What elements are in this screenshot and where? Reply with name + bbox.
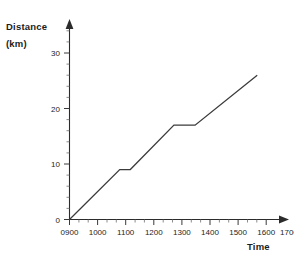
x-tick-label-1200: 1200: [145, 228, 163, 237]
y-tick-label-0: 0: [56, 216, 61, 225]
x-tick-label-0900: 0900: [61, 228, 79, 237]
chart-screenshot: 0 10 20 30 0900 1000 1100 1200 1300 1400…: [0, 0, 294, 255]
x-tick-labels: 0900 1000 1100 1200 1300 1400 1500 1600 …: [61, 228, 294, 237]
x-axis-group: [70, 216, 290, 224]
y-axis-ticks: [64, 31, 70, 220]
y-tick-label-20: 20: [51, 105, 60, 114]
x-axis-title: Time: [247, 241, 270, 252]
distance-time-chart: 0 10 20 30 0900 1000 1100 1200 1300 1400…: [0, 0, 294, 255]
y-tick-labels: 0 10 20 30: [51, 49, 60, 225]
y-axis-title-line1: Distance: [6, 21, 47, 32]
x-tick-label-1300: 1300: [173, 228, 191, 237]
x-tick-label-1000: 1000: [89, 228, 107, 237]
y-tick-label-10: 10: [51, 160, 60, 169]
x-axis-ticks: [70, 220, 267, 226]
y-tick-label-30: 30: [51, 49, 60, 58]
x-tick-label-1500: 1500: [229, 228, 247, 237]
x-axis-arrow-icon: [279, 216, 289, 224]
x-tick-label-1100: 1100: [117, 228, 135, 237]
y-axis-title-line2: (km): [6, 38, 27, 49]
journey-data-line: [70, 75, 258, 219]
x-tick-label-1700: 1700: [280, 228, 294, 237]
x-tick-label-1400: 1400: [201, 228, 219, 237]
y-axis-arrow-icon: [66, 19, 74, 29]
x-tick-label-1600: 1600: [257, 228, 275, 237]
